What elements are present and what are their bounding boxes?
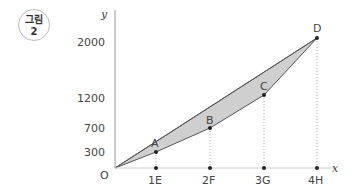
origin-label: O bbox=[100, 169, 109, 182]
point-label: D bbox=[313, 22, 321, 35]
figure: 그림 2 y x O 2000 1200 700 300 1E 2F 3G 4H… bbox=[0, 0, 358, 193]
x-tick: 4H bbox=[308, 174, 323, 187]
point-label: B bbox=[206, 114, 214, 127]
x-tick: 1E bbox=[148, 174, 162, 187]
y-tick: 2000 bbox=[77, 36, 105, 49]
y-tick: 700 bbox=[84, 122, 105, 135]
x-axis-label: x bbox=[332, 162, 339, 175]
point-label: A bbox=[151, 137, 159, 150]
x-tick: 2F bbox=[202, 174, 215, 187]
x-tick: 3G bbox=[255, 174, 271, 187]
graph: y x O 2000 1200 700 300 1E 2F 3G 4H A B … bbox=[0, 0, 358, 193]
y-tick: 300 bbox=[84, 146, 105, 159]
y-tick: 1200 bbox=[77, 92, 105, 105]
y-axis-label: y bbox=[100, 8, 108, 21]
point-label: C bbox=[260, 80, 268, 93]
